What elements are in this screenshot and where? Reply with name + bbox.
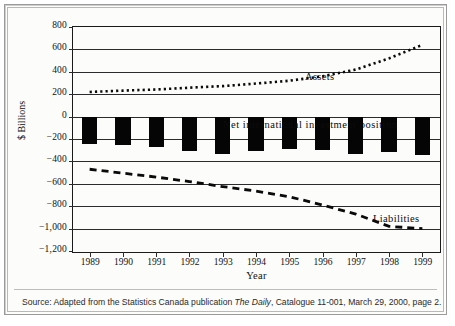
x-axis-title: Year xyxy=(72,270,441,281)
y-tick-label: −400 xyxy=(15,154,67,164)
y-tick-label: 400 xyxy=(15,65,67,75)
bar xyxy=(182,117,197,152)
source-separator xyxy=(14,289,437,290)
plot-box: Assets Net international investment posi… xyxy=(72,26,441,253)
y-tick-mark xyxy=(69,139,73,140)
source-note: Source: Adapted from the Statistics Cana… xyxy=(22,297,433,308)
y-tick-label: −1,000 xyxy=(15,222,67,232)
y-tick-mark xyxy=(69,184,73,185)
figure-inner-border: 8006004002000−200−400−600−800−1,000−1,20… xyxy=(7,7,444,312)
bar xyxy=(415,117,430,156)
y-tick-label: 800 xyxy=(15,20,67,30)
y-tick-mark xyxy=(69,72,73,73)
x-tick-label: 1989 xyxy=(81,257,100,267)
y-tick-mark xyxy=(69,206,73,207)
series-label-assets: Assets xyxy=(305,71,335,82)
x-tick-label: 1997 xyxy=(347,257,366,267)
y-tick-label: −800 xyxy=(15,199,67,209)
gridline xyxy=(73,161,440,162)
gridline xyxy=(73,72,440,73)
y-axis-title: $ Billions xyxy=(16,86,27,156)
y-tick-label: −1,200 xyxy=(15,244,67,254)
source-publication-title: The Daily xyxy=(235,297,271,307)
gridline xyxy=(73,206,440,207)
series-label-liabilities: Liabilities xyxy=(373,213,419,224)
y-tick-label: −600 xyxy=(15,177,67,187)
chart-plot-region: 8006004002000−200−400−600−800−1,000−1,20… xyxy=(8,8,445,289)
gridline xyxy=(73,94,440,95)
y-tick-mark xyxy=(69,251,73,252)
x-tick-label: 1993 xyxy=(214,257,233,267)
y-tick-label: 600 xyxy=(15,42,67,52)
x-tick-label: 1995 xyxy=(280,257,299,267)
y-tick-mark xyxy=(69,27,73,28)
bar xyxy=(115,117,130,146)
bar xyxy=(149,117,164,147)
gridline xyxy=(73,229,440,230)
x-tick-label: 1998 xyxy=(380,257,399,267)
x-tick-label: 1996 xyxy=(314,257,333,267)
x-tick-label: 1992 xyxy=(180,257,199,267)
gridline xyxy=(73,184,440,185)
figure-frame: 8006004002000−200−400−600−800−1,000−1,20… xyxy=(4,4,447,315)
x-tick-label: 1994 xyxy=(247,257,266,267)
y-tick-mark xyxy=(69,49,73,50)
source-prefix: Source: Adapted from the Statistics Cana… xyxy=(22,297,235,307)
y-tick-mark xyxy=(69,229,73,230)
x-tick-label: 1991 xyxy=(147,257,166,267)
gridline xyxy=(73,49,440,50)
bar xyxy=(82,117,97,144)
x-tick-label: 1990 xyxy=(114,257,133,267)
line-assets xyxy=(90,45,423,92)
y-tick-mark xyxy=(69,94,73,95)
y-tick-mark xyxy=(69,117,73,118)
series-label-net-international-investment-position: Net international investment position xyxy=(223,119,398,130)
source-suffix: , Catalogue 11-001, March 29, 2000, page… xyxy=(271,297,441,307)
x-tick-label: 1999 xyxy=(413,257,432,267)
y-tick-mark xyxy=(69,161,73,162)
